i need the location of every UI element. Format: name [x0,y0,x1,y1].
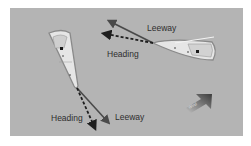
leeway-label-right: Leeway [147,23,176,33]
heading-label-left: Heading [51,113,83,123]
heading-arrow-right [106,34,153,43]
boat-left [49,31,78,89]
diagram-canvas [0,0,251,146]
heading-label-right: Heading [107,49,139,59]
boat-right [153,37,215,60]
leeway-label-left: Leeway [115,112,144,122]
